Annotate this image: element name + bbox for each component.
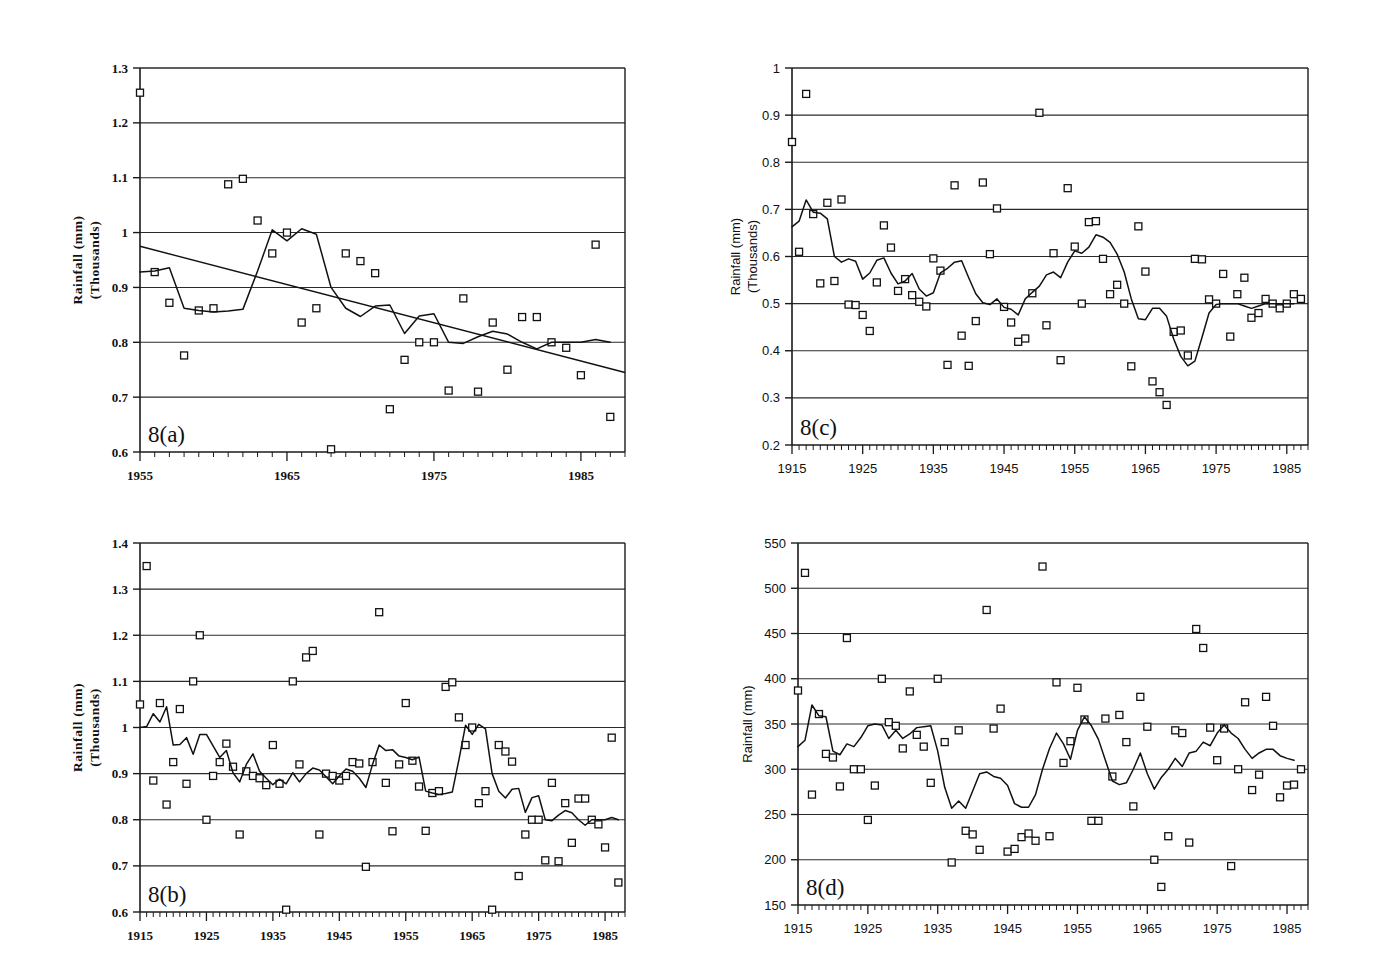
data-point-marker (328, 446, 335, 453)
data-point-marker (993, 205, 1000, 212)
data-point-marker (1018, 834, 1025, 841)
data-point-marker (864, 816, 871, 823)
data-point-marker (362, 863, 369, 870)
data-point-marker (283, 229, 290, 236)
data-point-marker (829, 754, 836, 761)
ytick-label-0.7: 0.7 (762, 202, 780, 217)
ytick-label-250: 250 (764, 807, 786, 822)
xtick-label-1935: 1935 (919, 461, 948, 476)
ytick-label-0.2: 0.2 (762, 438, 780, 453)
data-point-marker (210, 305, 217, 312)
data-point-marker (916, 298, 923, 305)
data-point-marker (607, 413, 614, 420)
data-point-marker (1130, 803, 1137, 810)
data-point-marker (979, 179, 986, 186)
series-line-a (140, 229, 610, 349)
data-point-marker (181, 352, 188, 359)
data-point-marker (990, 725, 997, 732)
data-point-marker (958, 332, 965, 339)
ytick-label-0.3: 0.3 (762, 390, 780, 405)
data-point-marker (1036, 109, 1043, 116)
data-point-marker (817, 280, 824, 287)
ytick-label-1.4: 1.4 (112, 536, 129, 551)
data-point-marker (1025, 830, 1032, 837)
data-point-marker (269, 742, 276, 749)
ytick-label-1.1: 1.1 (112, 170, 128, 185)
data-point-marker (1172, 727, 1179, 734)
y-axis-title-line2: (Thousands) (87, 221, 102, 300)
data-point-marker (850, 766, 857, 773)
data-point-marker (1298, 766, 1305, 773)
data-point-marker (535, 816, 542, 823)
data-point-marker (515, 873, 522, 880)
data-point-marker (1107, 291, 1114, 298)
data-point-marker (906, 688, 913, 695)
ytick-label-0.8: 0.8 (762, 155, 780, 170)
data-point-marker (401, 356, 408, 363)
xtick-label-1945: 1945 (993, 921, 1022, 936)
xtick-label-1925: 1925 (193, 928, 220, 943)
data-point-marker (303, 654, 310, 661)
xtick-label-1965: 1965 (459, 928, 486, 943)
data-point-marker (143, 563, 150, 570)
data-point-marker (1144, 723, 1151, 730)
ytick-label-0.6: 0.6 (112, 445, 129, 460)
data-point-marker (1100, 255, 1107, 262)
series-markers-d (795, 563, 1305, 890)
data-point-marker (216, 759, 223, 766)
data-point-marker (1102, 715, 1109, 722)
data-point-marker (357, 258, 364, 265)
xtick-label-1985: 1985 (1272, 461, 1301, 476)
xtick-label-1915: 1915 (778, 461, 807, 476)
data-point-marker (1256, 771, 1263, 778)
data-point-marker (183, 780, 190, 787)
data-point-marker (1057, 357, 1064, 364)
data-point-marker (582, 795, 589, 802)
data-point-marker (920, 743, 927, 750)
data-point-marker (329, 772, 336, 779)
ytick-label-150: 150 (764, 898, 786, 913)
data-point-marker (1242, 699, 1249, 706)
data-point-marker (795, 687, 802, 694)
data-point-marker (972, 318, 979, 325)
data-point-marker (1235, 766, 1242, 773)
data-point-marker (1046, 833, 1053, 840)
xtick-label-1925: 1925 (848, 461, 877, 476)
data-point-marker (930, 255, 937, 262)
data-point-marker (376, 609, 383, 616)
data-point-marker (249, 772, 256, 779)
data-point-marker (1241, 274, 1248, 281)
data-point-marker (1142, 268, 1149, 275)
data-point-marker (969, 831, 976, 838)
data-point-marker (1163, 401, 1170, 408)
data-point-marker (389, 828, 396, 835)
data-point-marker (482, 788, 489, 795)
ytick-label-0.4: 0.4 (762, 343, 780, 358)
data-point-marker (296, 761, 303, 768)
ytick-label-300: 300 (764, 762, 786, 777)
chart-d-content: 1502002503003504004505005501915192519351… (740, 536, 1308, 937)
data-point-marker (592, 241, 599, 248)
data-point-marker (151, 269, 158, 276)
data-point-marker (880, 222, 887, 229)
data-point-marker (843, 635, 850, 642)
data-point-marker (386, 406, 393, 413)
panel-tag-d: 8(d) (806, 875, 844, 900)
xtick-label-1955: 1955 (1060, 461, 1089, 476)
data-point-marker (801, 569, 808, 576)
ytick-label-1.2: 1.2 (112, 628, 128, 643)
data-point-marker (349, 759, 356, 766)
data-point-marker (489, 319, 496, 326)
data-point-marker (1297, 295, 1304, 302)
chart-svg-c: 0.20.30.40.50.60.70.80.91191519251935194… (690, 30, 1340, 500)
ytick-label-350: 350 (764, 717, 786, 732)
chart-b-content: 0.60.70.80.911.11.21.31.4191519251935194… (70, 536, 625, 944)
data-point-marker (822, 750, 829, 757)
data-point-marker (309, 647, 316, 654)
y-axis-title-line1: Rainfall (mm) (70, 683, 85, 772)
data-point-marker (1008, 319, 1015, 326)
data-point-marker (562, 800, 569, 807)
xtick-label-1965: 1965 (274, 468, 301, 483)
data-point-marker (923, 303, 930, 310)
data-point-marker (1156, 389, 1163, 396)
